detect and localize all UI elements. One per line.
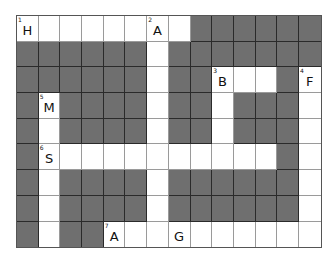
block-cell xyxy=(234,119,256,145)
block-cell xyxy=(234,42,256,68)
answer-cell[interactable] xyxy=(191,222,213,248)
answer-cell[interactable] xyxy=(234,144,256,170)
block-cell xyxy=(191,67,213,93)
block-cell xyxy=(82,222,104,248)
answer-cell[interactable] xyxy=(147,67,169,93)
block-cell xyxy=(256,93,278,119)
answer-cell[interactable] xyxy=(147,93,169,119)
block-cell xyxy=(234,93,256,119)
answer-cell[interactable]: 2A xyxy=(147,16,169,42)
answer-cell[interactable] xyxy=(39,222,61,248)
block-cell xyxy=(60,196,82,222)
cell-letter: H xyxy=(17,20,38,41)
block-cell xyxy=(299,16,321,42)
answer-cell[interactable] xyxy=(234,67,256,93)
answer-cell[interactable] xyxy=(299,93,321,119)
block-cell xyxy=(277,42,299,68)
block-cell xyxy=(191,16,213,42)
block-cell xyxy=(104,42,126,68)
answer-cell[interactable] xyxy=(104,144,126,170)
block-cell xyxy=(125,119,147,145)
block-cell xyxy=(104,170,126,196)
answer-cell[interactable] xyxy=(299,222,321,248)
block-cell xyxy=(125,196,147,222)
answer-cell[interactable] xyxy=(191,144,213,170)
answer-cell[interactable] xyxy=(299,196,321,222)
answer-cell[interactable] xyxy=(104,16,126,42)
block-cell xyxy=(17,42,39,68)
block-cell xyxy=(212,170,234,196)
answer-cell[interactable] xyxy=(256,67,278,93)
answer-cell[interactable] xyxy=(212,93,234,119)
block-cell xyxy=(277,144,299,170)
answer-cell[interactable]: 5M xyxy=(39,93,61,119)
block-cell xyxy=(299,42,321,68)
block-cell xyxy=(104,67,126,93)
answer-cell[interactable]: 1H xyxy=(17,16,39,42)
cell-letter: A xyxy=(104,226,125,248)
cell-letter: A xyxy=(147,20,168,41)
answer-cell[interactable] xyxy=(169,144,191,170)
block-cell xyxy=(60,42,82,68)
answer-cell[interactable] xyxy=(169,16,191,42)
answer-cell[interactable] xyxy=(60,16,82,42)
answer-cell[interactable] xyxy=(125,16,147,42)
block-cell xyxy=(82,170,104,196)
answer-cell[interactable] xyxy=(299,170,321,196)
answer-cell[interactable] xyxy=(39,170,61,196)
block-cell xyxy=(169,170,191,196)
answer-cell[interactable] xyxy=(60,144,82,170)
block-cell xyxy=(191,93,213,119)
block-cell xyxy=(256,196,278,222)
answer-cell[interactable]: 3B xyxy=(212,67,234,93)
block-cell xyxy=(17,67,39,93)
answer-cell[interactable] xyxy=(212,119,234,145)
answer-cell[interactable] xyxy=(82,144,104,170)
block-cell xyxy=(82,42,104,68)
block-cell xyxy=(82,93,104,119)
answer-cell[interactable] xyxy=(147,170,169,196)
answer-cell[interactable]: 4F xyxy=(299,67,321,93)
block-cell xyxy=(60,119,82,145)
block-cell xyxy=(169,93,191,119)
answer-cell[interactable]: 6S xyxy=(39,144,61,170)
answer-cell[interactable] xyxy=(256,144,278,170)
block-cell xyxy=(169,119,191,145)
block-cell xyxy=(277,119,299,145)
answer-cell[interactable] xyxy=(39,16,61,42)
block-cell xyxy=(125,42,147,68)
answer-cell[interactable] xyxy=(212,144,234,170)
block-cell xyxy=(256,170,278,196)
block-cell xyxy=(234,170,256,196)
answer-cell[interactable] xyxy=(125,222,147,248)
block-cell xyxy=(234,196,256,222)
answer-cell[interactable] xyxy=(147,196,169,222)
block-cell xyxy=(191,42,213,68)
answer-cell[interactable] xyxy=(299,144,321,170)
block-cell xyxy=(277,170,299,196)
answer-cell[interactable] xyxy=(125,144,147,170)
answer-cell[interactable] xyxy=(39,196,61,222)
answer-cell[interactable] xyxy=(212,222,234,248)
answer-cell[interactable] xyxy=(256,222,278,248)
block-cell xyxy=(212,196,234,222)
answer-cell[interactable] xyxy=(147,119,169,145)
answer-cell[interactable]: 7A xyxy=(104,222,126,248)
answer-cell[interactable]: G xyxy=(169,222,191,248)
answer-cell[interactable] xyxy=(39,119,61,145)
answer-cell[interactable] xyxy=(82,16,104,42)
answer-cell[interactable] xyxy=(147,222,169,248)
answer-cell[interactable] xyxy=(277,222,299,248)
block-cell xyxy=(277,16,299,42)
block-cell xyxy=(191,170,213,196)
block-cell xyxy=(39,42,61,68)
answer-cell[interactable] xyxy=(299,119,321,145)
answer-cell[interactable] xyxy=(147,144,169,170)
block-cell xyxy=(169,196,191,222)
block-cell xyxy=(17,222,39,248)
cell-letter: B xyxy=(212,71,233,92)
answer-cell[interactable] xyxy=(147,42,169,68)
crossword-grid: 1H2A3B4F5M6S7AG xyxy=(16,15,322,248)
answer-cell[interactable] xyxy=(234,222,256,248)
block-cell xyxy=(17,170,39,196)
